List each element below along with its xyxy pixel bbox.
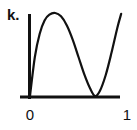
x-tick-label: 1	[123, 106, 131, 123]
series-line-curve	[30, 13, 121, 96]
x-tick-labels: 01	[26, 106, 131, 123]
chart: k. 01	[0, 0, 137, 130]
plot-area: 01	[20, 13, 131, 123]
panel-label: k.	[7, 6, 20, 23]
series-layer	[30, 13, 121, 96]
x-tick-label: 0	[26, 106, 34, 123]
